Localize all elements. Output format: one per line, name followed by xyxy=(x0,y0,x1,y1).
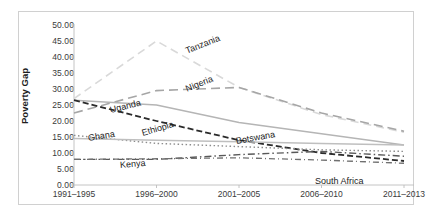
series-label-south-africa: South Africa xyxy=(315,176,364,186)
poverty-gap-line-chart: Poverty Gap 0.005.0010.0015.0020.0025.00… xyxy=(0,0,428,220)
series-line-tanzania xyxy=(74,41,404,132)
